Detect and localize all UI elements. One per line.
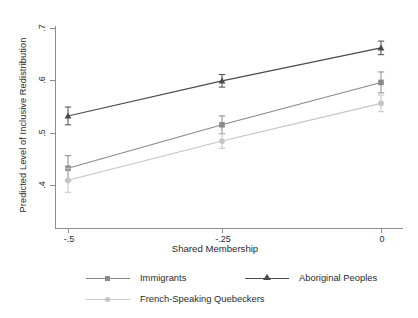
chart-legend: Immigrants Aboriginal Peoples French-Spe… [0, 262, 418, 318]
legend-label-aboriginal[interactable]: Aboriginal Peoples [299, 272, 377, 283]
series-aboriginal-peoples [65, 41, 385, 125]
circle-marker-icon [105, 297, 110, 302]
legend-label-quebeckers[interactable]: French-Speaking Quebeckers [140, 293, 265, 304]
series-french-speaking-quebeckers [65, 95, 384, 192]
series-immigrants [65, 72, 384, 181]
triangle-marker-icon [263, 274, 271, 280]
legend-label-immigrants[interactable]: Immigrants [140, 272, 186, 283]
chart-figure: Predicted Level of Inclusive Redistribut… [0, 0, 418, 318]
square-marker-icon [105, 276, 110, 281]
